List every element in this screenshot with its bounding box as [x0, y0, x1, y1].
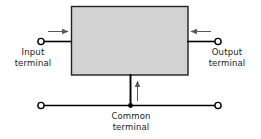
input-terminal-label: Input terminal	[2, 47, 64, 69]
output-terminal-node	[215, 38, 221, 44]
common-terminal-label-line1: Common	[99, 111, 163, 122]
input-terminal-label-line2: terminal	[2, 58, 64, 69]
input-terminal-label-line1: Input	[2, 47, 64, 58]
device-block	[72, 7, 189, 76]
diagram-canvas: Input terminal Output terminal Common te…	[0, 0, 261, 139]
output-terminal-label-line1: Output	[196, 47, 258, 58]
input-terminal-node	[38, 38, 44, 44]
common-junction-dot	[128, 103, 133, 108]
common-terminal-node-left	[38, 102, 44, 108]
common-terminal-node-right	[215, 102, 221, 108]
output-terminal-label-line2: terminal	[196, 58, 258, 69]
common-terminal-label-line2: terminal	[99, 122, 163, 133]
common-terminal-label: Common terminal	[99, 111, 163, 133]
output-terminal-label: Output terminal	[196, 47, 258, 69]
